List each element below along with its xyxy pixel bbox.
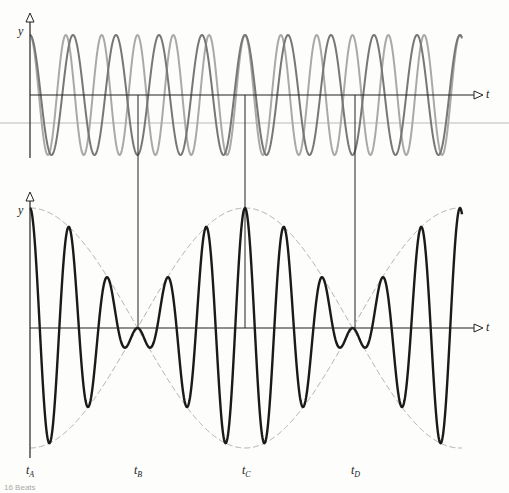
bottom-t-label: t	[486, 320, 489, 335]
marker-tB: tB	[134, 463, 142, 479]
top-t-arrow-icon	[474, 91, 483, 99]
top-y-label: y	[18, 24, 23, 39]
marker-tC: tC	[242, 463, 251, 479]
top-y-arrow-icon	[26, 13, 34, 22]
marker-tA: tA	[26, 463, 34, 479]
figure-caption: 16 Beats	[4, 483, 36, 492]
top-t-label: t	[486, 87, 489, 102]
resultant-wave	[30, 208, 462, 443]
beats-figure: y t y t tA tB tC tD 16 Beats	[0, 0, 509, 493]
bottom-y-label: y	[18, 203, 23, 218]
marker-tD: tD	[351, 463, 360, 479]
bottom-y-arrow-icon	[26, 192, 34, 201]
bottom-t-arrow-icon	[474, 324, 483, 332]
envelope-upper	[30, 208, 462, 328]
beats-diagram	[0, 0, 509, 493]
